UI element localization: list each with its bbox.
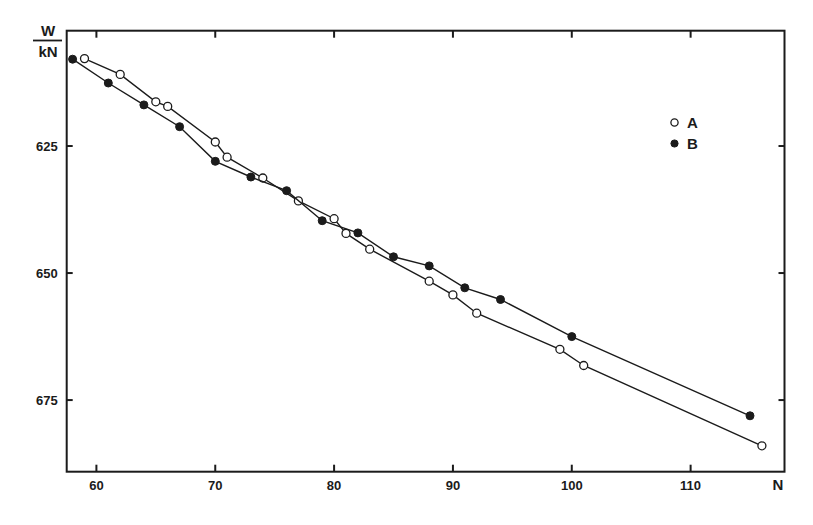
open-circle-marker [556,345,564,353]
x-tick-label: 100 [561,478,583,493]
x-axis-label: N [773,476,784,493]
filled-circle-marker [140,101,148,109]
filled-circle-marker [211,157,219,165]
x-tick-label: 90 [446,478,460,493]
legend-entry-a: A [671,114,698,131]
plot-frame [67,31,785,472]
filled-circle-marker [283,187,291,195]
filled-circle-marker [425,262,433,270]
legend-entry-b: B [671,135,698,152]
y-tick-label: 650 [36,266,58,281]
x-tick-label: 60 [89,478,103,493]
y-axis-label-numerator: W [41,22,56,39]
series-line-a [85,59,762,446]
filled-circle-marker [176,123,184,131]
open-circle-marker [164,102,172,110]
y-tick-label: 675 [36,393,58,408]
filled-circle-marker [390,253,398,261]
legend: A B [671,114,698,152]
filled-circle-icon [671,140,678,147]
open-circle-marker [473,309,481,317]
open-circle-marker [223,153,231,161]
filled-circle-marker [461,284,469,292]
legend-label-a: A [687,114,698,131]
filled-circle-marker [568,333,576,341]
y-axis-label: W kN [33,22,62,60]
open-circle-marker [211,138,219,146]
open-circle-marker [366,245,374,253]
x-tick-label: 110 [680,478,701,493]
open-circle-marker [758,442,766,450]
y-tick-label: 625 [36,139,58,154]
series-layer [69,55,766,450]
filled-circle-marker [497,296,505,304]
filled-circle-marker [247,173,255,181]
filled-circle-marker [354,229,362,237]
filled-circle-marker [746,412,754,420]
filled-circle-marker [104,79,112,87]
filled-circle-marker [318,217,326,225]
series-line-b [73,59,750,416]
filled-circle-marker [69,55,77,63]
open-circle-marker [580,362,588,370]
x-axis-ticks: 60708090100110 [89,31,701,493]
open-circle-marker [342,229,350,237]
open-circle-marker [449,291,457,299]
x-tick-label: 70 [208,478,222,493]
open-circle-icon [671,119,678,126]
open-circle-marker [81,55,89,63]
open-circle-marker [330,215,338,223]
open-circle-marker [152,98,160,106]
open-circle-marker [425,277,433,285]
line-chart: 60708090100110 625650675 W kN N A B [0,0,813,525]
y-axis-ticks: 625650675 [36,139,785,408]
legend-label-b: B [687,135,698,152]
x-tick-label: 80 [327,478,341,493]
open-circle-marker [116,70,124,78]
y-axis-label-denominator: kN [38,43,57,60]
series-a [81,55,766,450]
